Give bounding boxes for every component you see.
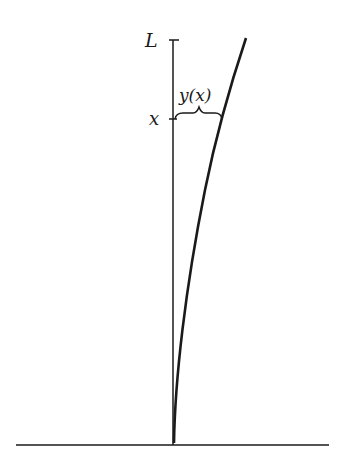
beam-diagram: L x y(x) — [0, 0, 341, 468]
label-L: L — [144, 29, 158, 51]
deflection-brace — [175, 107, 222, 119]
label-x: x — [149, 108, 159, 129]
label-y-of-x: y(x) — [178, 85, 211, 105]
